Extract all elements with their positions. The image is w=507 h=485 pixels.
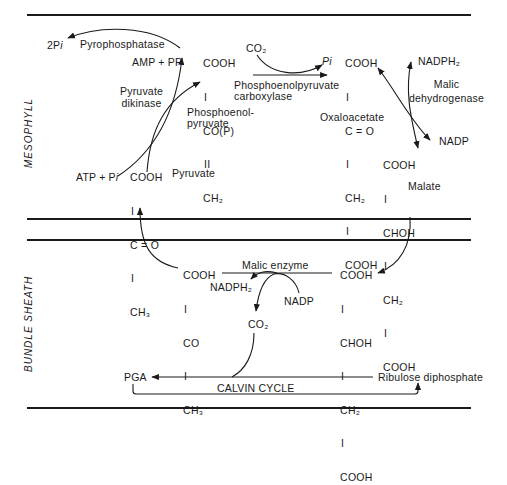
pga-label: PGA bbox=[124, 371, 147, 383]
calvin-cycle-label: CALVIN CYCLE bbox=[217, 382, 294, 394]
oxaloacetate-name-label: Oxaloacetate bbox=[320, 111, 384, 123]
pep-structure: COOH I CO(P) II CH₂ bbox=[203, 36, 236, 226]
region-label-bundle-sheath: BUNDLE SHEATH bbox=[23, 276, 34, 372]
amp-pp-label: AMP + PP bbox=[132, 56, 182, 68]
pyruvate-structure-mesophyll: COOH I C = O I CH₃ bbox=[130, 150, 163, 340]
malic-dehydrogenase-label: Malic dehydrogenase bbox=[409, 77, 484, 105]
nadph2-label-mdh: NADPH₂ bbox=[418, 55, 460, 67]
nadp-label-mdh: NADP bbox=[439, 135, 469, 147]
nadph2-label-malic-enzyme: NADPH₂ bbox=[210, 281, 252, 293]
pep-name-label: Phosphoenol- pyruvate bbox=[187, 107, 254, 129]
pyruvate-dikinase-label: Pyruvate dikinase bbox=[120, 85, 163, 109]
co2-calvin-arrow bbox=[232, 333, 254, 377]
co2-pi-arrow bbox=[257, 55, 322, 73]
pyrophosphatase-label: Pyrophosphatase bbox=[80, 38, 165, 50]
pyruvate-name-label: Pyruvate bbox=[172, 167, 215, 179]
pi-label-carboxylase: Pi bbox=[322, 55, 332, 67]
nadp-label-malic-enzyme: NADP bbox=[284, 295, 314, 307]
co2-label-mesophyll: CO₂ bbox=[246, 42, 266, 54]
pyruvate-structure-bundle-sheath: COOH I CO I CH₃ bbox=[183, 248, 216, 438]
ribulose-diphosphate-label: Ribulose diphosphate bbox=[378, 371, 483, 383]
malate-structure-bundle-sheath: COOH I CHOH I CH₂ I COOH bbox=[340, 248, 373, 485]
malate-structure-mesophyll: COOH I CHOH I CH₂ I COOH bbox=[383, 138, 416, 396]
atp-pi-label: ATP + Pi bbox=[76, 171, 118, 183]
pi-product-label: 2Pi bbox=[47, 39, 63, 51]
region-label-mesophyll: MESOPHYLL bbox=[23, 98, 34, 168]
malic-enzyme-label: Malic enzyme bbox=[242, 259, 309, 271]
pep-carboxylase-label: Phosphoenolpyruvate carboxylase bbox=[234, 80, 339, 102]
malate-name-label: Malate bbox=[408, 180, 441, 192]
co2-label-bundle-sheath: CO₂ bbox=[248, 318, 268, 330]
mdh-nadph-arrow bbox=[408, 62, 418, 148]
